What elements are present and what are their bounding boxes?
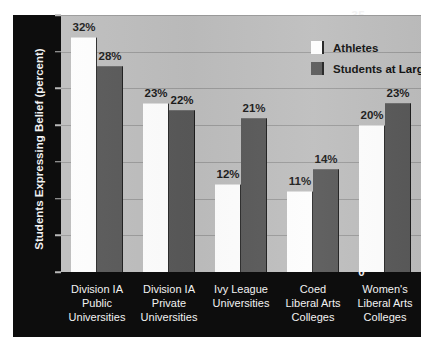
- x-axis-category-line: Liberal Arts: [357, 296, 412, 310]
- bar-athletes[interactable]: [287, 191, 313, 272]
- legend-swatch-athletes: [311, 41, 324, 54]
- bar-value-label: 32%: [72, 21, 95, 33]
- legend-label-athletes: Athletes: [333, 42, 378, 54]
- bar-value-label: 28%: [98, 50, 121, 62]
- legend-label-students-at-large: Students at Large: [333, 63, 421, 75]
- bar-value-label: 21%: [242, 102, 265, 114]
- x-axis-category-line: Public: [69, 296, 126, 310]
- bar-athletes[interactable]: [359, 125, 385, 272]
- x-axis-category-label: CoedLiberal ArtsColleges: [285, 282, 340, 324]
- bar-value-label: 22%: [170, 94, 193, 106]
- plot-area: 32%28%23%22%12%21%11%14%20%23% Athletes …: [61, 15, 421, 272]
- bar-students-at-large[interactable]: [385, 103, 411, 272]
- x-axis-category-line: Division IA: [69, 282, 126, 296]
- x-axis-category-line: Division IA: [141, 282, 198, 296]
- bar-value-label: 20%: [360, 109, 383, 121]
- x-axis-category-line: Liberal Arts: [285, 296, 340, 310]
- bar-athletes[interactable]: [71, 37, 97, 272]
- chart-figure: Students Expressing Belief (percent) 051…: [13, 15, 421, 337]
- x-axis-category-line: Private: [141, 296, 198, 310]
- x-axis-category-line: Universities: [69, 310, 126, 324]
- x-axis-category-line: Universities: [141, 310, 198, 324]
- legend-swatch-students-at-large: [311, 62, 324, 75]
- x-axis-category-line: Women's: [357, 282, 412, 296]
- bar-students-at-large[interactable]: [241, 118, 267, 272]
- x-axis-category-line: Colleges: [357, 310, 412, 324]
- x-axis-category-line: Ivy League: [213, 282, 270, 296]
- y-axis-title: Students Expressing Belief (percent): [33, 34, 45, 264]
- bar-value-label: 12%: [216, 168, 239, 180]
- bar-value-label: 11%: [289, 175, 311, 187]
- bar-students-at-large[interactable]: [97, 66, 123, 272]
- bar-value-label: 14%: [314, 153, 337, 165]
- bar-athletes[interactable]: [215, 184, 241, 272]
- gridline: [61, 15, 421, 16]
- x-axis-category-label: Division IAPrivateUniversities: [141, 282, 198, 324]
- legend-item-athletes[interactable]: Athletes: [311, 37, 421, 58]
- x-axis-category-label: Ivy LeagueUniversities: [213, 282, 270, 310]
- bar-students-at-large[interactable]: [313, 169, 339, 272]
- x-axis-category-label: Division IAPublicUniversities: [69, 282, 126, 324]
- x-axis-category-label: Women'sLiberal ArtsColleges: [357, 282, 412, 324]
- bar-athletes[interactable]: [143, 103, 169, 272]
- x-axis-category-line: Universities: [213, 296, 270, 310]
- chart-legend: Athletes Students at Large: [311, 37, 421, 79]
- x-axis-category-line: Coed: [285, 282, 340, 296]
- legend-item-students-at-large[interactable]: Students at Large: [311, 58, 421, 79]
- x-axis-category-line: Colleges: [285, 310, 340, 324]
- bar-students-at-large[interactable]: [169, 110, 195, 272]
- bar-value-label: 23%: [144, 87, 167, 99]
- bar-value-label: 23%: [386, 87, 409, 99]
